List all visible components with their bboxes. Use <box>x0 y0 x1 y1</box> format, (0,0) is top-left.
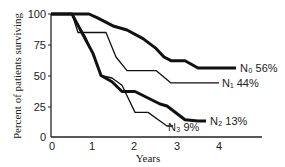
y-axis-label: Percent of patients surviving <box>11 12 23 139</box>
label-n1: N₁ 44% <box>222 77 259 89</box>
x-tick-3: 3 <box>174 140 180 152</box>
y-tick-100: 100 <box>28 8 46 20</box>
y-ticks: 100 75 50 25 0 <box>28 8 51 143</box>
label-n3: N₃ 9% <box>168 121 200 133</box>
curve-n0 <box>51 14 236 68</box>
x-ticks: 0 1 2 3 4 <box>49 140 222 152</box>
y-tick-50: 50 <box>34 70 46 82</box>
curve-labels: N₀ 56% N₁ 44% N₂ 13% N₃ 9% <box>168 62 278 133</box>
x-tick-1: 1 <box>89 140 95 152</box>
x-tick-4: 4 <box>216 140 222 152</box>
survival-chart: 100 75 50 25 0 0 1 2 3 4 Years Percent o… <box>0 0 285 167</box>
label-n0: N₀ 56% <box>240 62 278 74</box>
x-tick-2: 2 <box>131 140 137 152</box>
x-axis-label: Years <box>136 152 161 164</box>
y-tick-0: 0 <box>40 131 46 143</box>
x-tick-0: 0 <box>49 140 55 152</box>
label-n2: N₂ 13% <box>210 115 248 127</box>
y-tick-25: 25 <box>34 101 46 113</box>
y-tick-75: 75 <box>34 39 46 51</box>
